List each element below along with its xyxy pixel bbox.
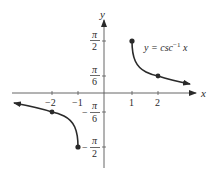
svg-text:−: − bbox=[82, 107, 88, 118]
svg-text:π: π bbox=[92, 100, 98, 111]
svg-text:π: π bbox=[92, 29, 98, 40]
y-tick-label-pi-over-6: π 6 bbox=[90, 64, 100, 87]
inverse-cosecant-graph: x y −2 −1 1 2 π 2 π 6 − π 6 − π 2 bbox=[0, 0, 218, 170]
x-tick-label-1: 1 bbox=[129, 97, 134, 108]
x-tick-label-neg2: −2 bbox=[45, 97, 56, 108]
function-label: y = csc−1 x bbox=[143, 41, 188, 53]
point-1-pi-over-2 bbox=[129, 38, 134, 43]
svg-text:2: 2 bbox=[92, 41, 97, 52]
y-tick-label-neg-pi-over-6: − π 6 bbox=[82, 100, 100, 124]
svg-text:−: − bbox=[82, 142, 88, 153]
svg-text:π: π bbox=[92, 64, 98, 75]
svg-text:6: 6 bbox=[92, 76, 97, 87]
curve-left-branch bbox=[14, 103, 78, 147]
point-2-pi-over-6 bbox=[156, 74, 161, 79]
svg-text:6: 6 bbox=[92, 113, 97, 124]
y-tick-label-neg-pi-over-2: − π 2 bbox=[82, 135, 100, 159]
y-axis-label: y bbox=[99, 8, 105, 20]
x-tick-label-2: 2 bbox=[155, 97, 160, 108]
x-axis-label: x bbox=[200, 87, 206, 99]
svg-text:π: π bbox=[92, 135, 98, 146]
y-tick-label-pi-over-2: π 2 bbox=[90, 29, 100, 52]
point-neg1-neg-pi-over-2 bbox=[75, 144, 80, 149]
svg-text:2: 2 bbox=[92, 148, 97, 159]
point-neg2-neg-pi-over-6 bbox=[50, 110, 55, 115]
